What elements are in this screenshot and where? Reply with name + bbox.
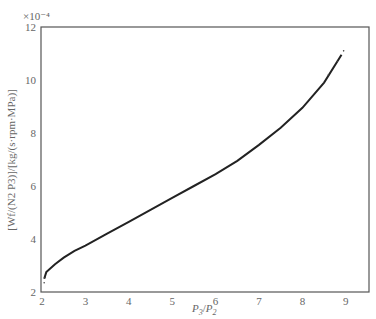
y-axis-exponent: ×10⁻⁴ <box>23 10 50 22</box>
y-tick-label: 6 <box>31 180 37 192</box>
data-point <box>336 61 338 63</box>
data-point <box>328 74 330 76</box>
y-tick-label: 8 <box>31 127 37 139</box>
x-tick-label: 8 <box>300 295 306 307</box>
y-axis-label: [Wf/(N2 P3)]/[kg/(s·rpm·MPa)] <box>5 89 18 230</box>
x-tick-label: 6 <box>213 295 219 307</box>
data-curve <box>44 55 341 279</box>
scatter-noise <box>43 50 344 283</box>
x-tick-label: 4 <box>126 295 132 307</box>
x-tick-label: 3 <box>83 295 89 307</box>
data-point <box>44 277 46 279</box>
chart: 24681012 23456789 ×10⁻⁴ P3/P2 [Wf/(N2 P3… <box>0 0 376 319</box>
x-tick-label: 9 <box>343 295 349 307</box>
x-tick-label: 7 <box>256 295 262 307</box>
x-tick-label: 2 <box>39 295 45 307</box>
data-point <box>343 50 345 52</box>
plot-frame <box>41 27 369 292</box>
data-point <box>43 282 45 284</box>
y-tick-label: 2 <box>31 286 37 298</box>
y-tick-label: 10 <box>25 74 37 86</box>
y-axis-ticks: 24681012 <box>25 21 37 298</box>
y-tick-label: 4 <box>31 233 37 245</box>
x-tick-label: 5 <box>169 295 175 307</box>
y-tick-label: 12 <box>25 21 36 33</box>
